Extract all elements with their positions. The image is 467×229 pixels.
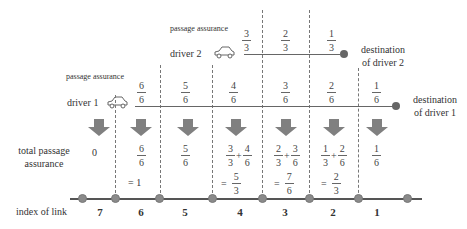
total-link5: 56 [181, 143, 190, 168]
total-link1: 16 [372, 143, 381, 168]
link-boundary [262, 10, 263, 198]
node-icon [305, 194, 314, 203]
link-index-5: 5 [175, 206, 195, 218]
car-icon [106, 96, 128, 109]
total-link6: 66 [137, 143, 146, 168]
passage-assurance-label-driver2: passage assurance [170, 24, 228, 33]
index-of-link-label: index of link [16, 206, 67, 217]
driver2-assurance-link4: 33 [242, 28, 251, 53]
driver1-assurance-link2: 26 [327, 80, 336, 105]
down-arrow-icon [275, 119, 297, 136]
down-arrow-icon [225, 119, 247, 136]
node-icon [208, 194, 217, 203]
down-arrow-icon [130, 119, 152, 136]
destination-driver2-label: destinationof driver 2 [358, 43, 408, 69]
total-link6-result: = 1 [128, 177, 141, 188]
driver1-assurance-link4: 46 [229, 80, 238, 105]
node-icon [78, 194, 87, 203]
total-link3-result: = 76 [273, 171, 294, 196]
link-boundary [160, 65, 161, 198]
link-boundary [309, 10, 310, 198]
passage-assurance-label-driver1: passage assurance [66, 72, 124, 81]
driver2-assurance-link3: 23 [281, 28, 290, 53]
driver1-route [135, 106, 393, 107]
driver1-label: driver 1 [67, 97, 98, 108]
node-icon [111, 194, 120, 203]
down-arrow-icon [323, 119, 345, 136]
driver2-route [244, 54, 340, 55]
total-link4: 33 + 46 [226, 143, 252, 168]
driver1-assurance-link6: 66 [137, 80, 146, 105]
node-icon [354, 194, 363, 203]
driver1-assurance-link5: 56 [181, 80, 190, 105]
node-icon [155, 194, 164, 203]
destination-icon [340, 50, 348, 58]
destination-driver1-label: destinationof driver 1 [405, 93, 465, 119]
total-link7: 0 [92, 147, 97, 158]
link-index-1: 1 [367, 206, 387, 218]
node-icon [258, 194, 267, 203]
link-line [70, 198, 422, 200]
total-link3: 23 + 36 [274, 143, 300, 168]
total-link2: 13 + 26 [321, 143, 347, 168]
driver2-assurance-link2: 13 [327, 28, 336, 53]
link-boundary [212, 65, 213, 198]
link-index-3: 3 [275, 206, 295, 218]
link-index-7: 7 [90, 206, 110, 218]
link-index-6: 6 [131, 206, 151, 218]
driver2-label: driver 2 [170, 48, 201, 59]
car-icon [213, 46, 235, 59]
total-link4-result: = 53 [220, 171, 241, 196]
destination-icon [392, 102, 400, 110]
down-arrow-icon [88, 119, 110, 136]
total-passage-assurance-label: total passageassurance [14, 144, 74, 170]
link-index-4: 4 [230, 206, 250, 218]
link-index-2: 2 [323, 206, 343, 218]
driver1-assurance-link3: 36 [281, 80, 290, 105]
link-boundary [358, 68, 359, 198]
link-boundary [115, 95, 116, 198]
driver1-assurance-link1: 16 [372, 80, 381, 105]
down-arrow-icon [366, 119, 388, 136]
node-icon [403, 194, 412, 203]
down-arrow-icon [177, 119, 199, 136]
total-link2-result: = 23 [320, 171, 341, 196]
